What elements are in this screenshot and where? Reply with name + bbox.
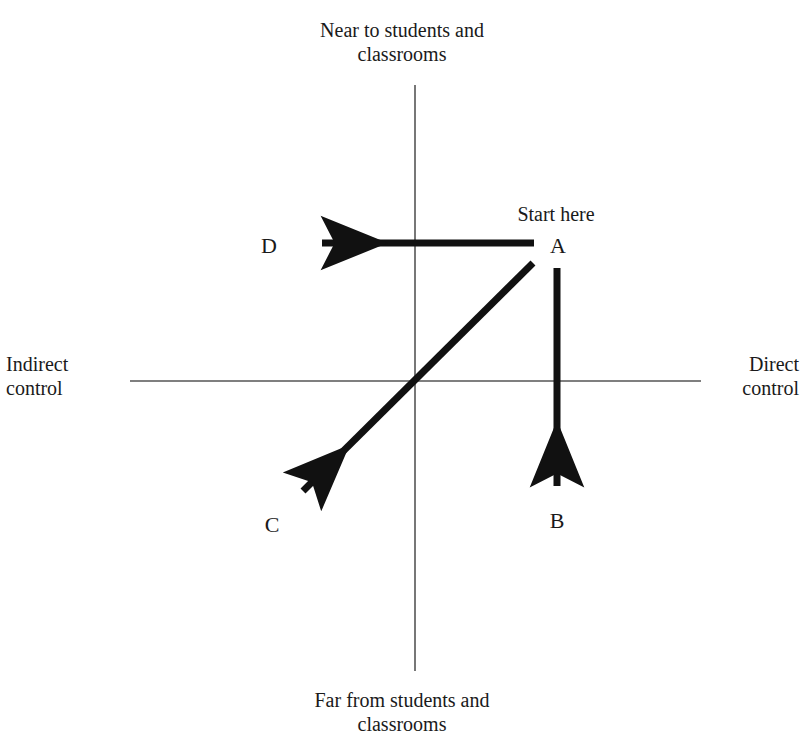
start-here-note: Start here <box>500 202 612 226</box>
point-label-c: C <box>257 512 287 539</box>
arrow-a-to-c <box>303 263 533 491</box>
axis-label-right: Direct control <box>707 352 799 401</box>
axis-label-top: Near to students and classrooms <box>262 18 542 67</box>
point-label-b: B <box>542 508 572 535</box>
axis-label-left: Indirect control <box>6 352 124 401</box>
point-label-d: D <box>254 233 284 260</box>
diagram-canvas: Near to students and classrooms Far from… <box>0 0 803 742</box>
point-label-a: A <box>543 233 573 260</box>
axis-label-bottom: Far from students and classrooms <box>262 688 542 737</box>
